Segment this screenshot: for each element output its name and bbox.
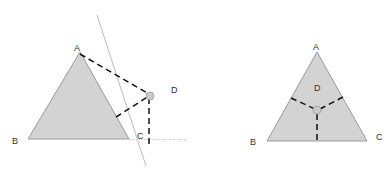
left-figure: A B C D xyxy=(12,15,186,166)
triangle-abc xyxy=(28,52,129,139)
label-d: D xyxy=(171,85,178,95)
label-c-right: C xyxy=(376,132,383,142)
label-b: B xyxy=(12,136,18,146)
label-a: A xyxy=(74,43,80,53)
dashed-line-d-to-side xyxy=(116,96,149,117)
diagram-canvas: A B C D A B C D xyxy=(0,0,392,172)
inner-point-marker xyxy=(313,106,321,114)
extended-side-line xyxy=(97,15,146,166)
right-figure: A B C D xyxy=(250,42,383,147)
point-d-marker xyxy=(146,92,154,100)
label-c: C xyxy=(137,131,144,141)
label-b-right: B xyxy=(250,137,256,147)
label-d-right: D xyxy=(314,83,321,93)
label-a-right: A xyxy=(313,42,319,52)
